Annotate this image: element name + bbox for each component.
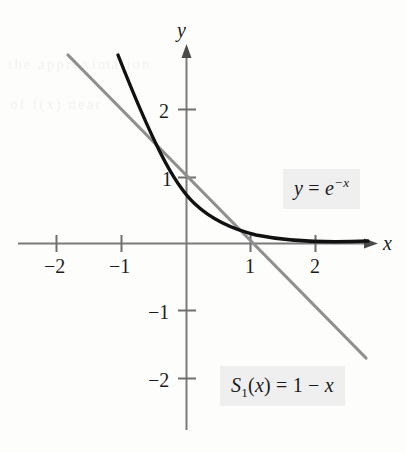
tangent-eq-rhs: 1 − x	[293, 374, 334, 396]
tangent-eq-rhs-var: x	[325, 374, 334, 396]
y-tick-label--2: −2	[148, 370, 169, 390]
x-tick-label-2: 2	[310, 256, 320, 276]
y-axis-arrowhead	[182, 44, 192, 58]
y-tick-label-1: 1	[162, 169, 172, 189]
exponential-curve-series	[118, 55, 368, 242]
tangent-eq-arg: (x)	[248, 374, 271, 396]
exponential-tangent-line-figure: the approximation of f(x) near y x −2 −1…	[0, 0, 406, 452]
x-tick-label--1: −1	[109, 256, 130, 276]
curve-eq-lhs: y	[294, 177, 303, 199]
curve-eq-equals: =	[303, 177, 325, 199]
tangent-eq-fn-sub: 1	[241, 385, 248, 400]
x-tick-label--2: −2	[44, 256, 65, 276]
curve-eq-base: e	[325, 177, 334, 199]
x-axis-label: x	[383, 233, 392, 253]
tangent-equation-label: S1(x) = 1 − x	[220, 366, 345, 406]
tangent-eq-arg-var: x	[255, 374, 264, 396]
x-tick-label-1: 1	[245, 256, 255, 276]
y-tick-label-2: 2	[159, 101, 169, 121]
y-axis-label: y	[177, 20, 186, 40]
y-tick-label--1: −1	[148, 302, 169, 322]
curve-equation-label: y = e−x	[283, 169, 360, 209]
tangent-eq-equals: =	[271, 374, 293, 396]
curve-eq-exponent: −x	[334, 175, 349, 190]
plot-canvas	[0, 0, 406, 452]
tangent-eq-fn: S	[231, 374, 241, 396]
